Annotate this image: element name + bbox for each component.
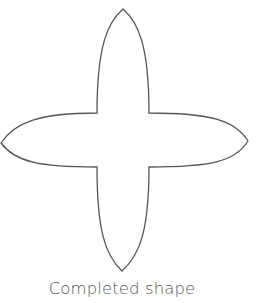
four-petal-cross-shape (1, 9, 248, 271)
figure-caption: Completed shape (0, 279, 244, 298)
completed-shape-diagram (0, 0, 258, 280)
